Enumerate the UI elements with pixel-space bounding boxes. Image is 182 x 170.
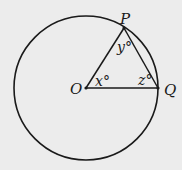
point-Q-dot [156, 86, 159, 89]
angle-z-label: z° [137, 72, 152, 88]
label-P: P [119, 10, 131, 28]
diagram-canvas: P O Q x° y° z° [0, 0, 182, 170]
angle-x-label: x° [95, 73, 110, 89]
label-Q: Q [164, 81, 176, 99]
label-O: O [70, 80, 82, 98]
angle-y-label: y° [116, 39, 132, 55]
circle-triangle-diagram: P O Q x° y° z° [0, 0, 182, 170]
point-O-dot [84, 86, 87, 89]
